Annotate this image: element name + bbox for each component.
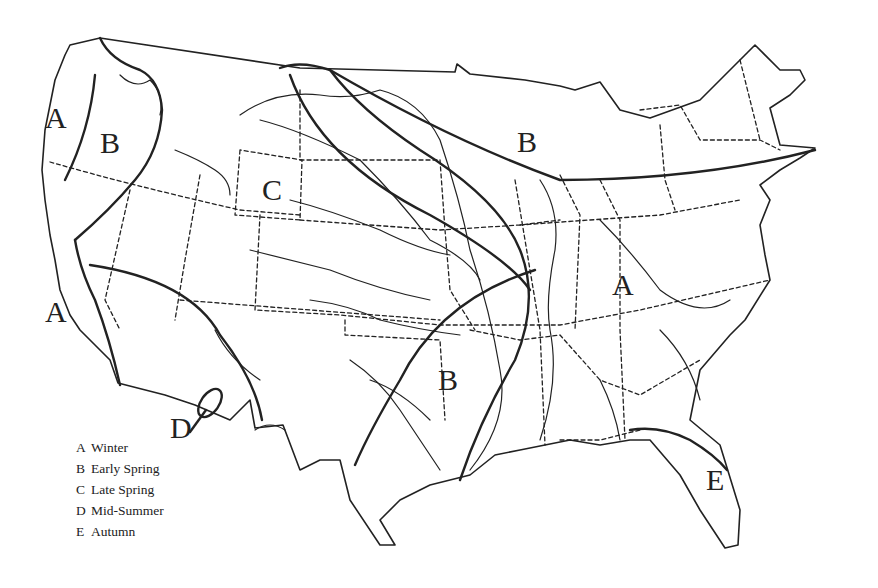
legend-item-mid-summer: D Mid-Summer (76, 503, 164, 524)
legend-item-winter: A Winter (76, 440, 164, 461)
region-label-b-south: B (438, 365, 458, 395)
legend-label: Early Spring (91, 461, 160, 482)
region-label-a-california: A (45, 297, 67, 327)
legend-key: D (76, 503, 91, 524)
legend-key: B (76, 461, 91, 482)
legend-key: C (76, 482, 91, 503)
region-label-b-great-lakes: B (517, 127, 537, 157)
legend-label: Autumn (91, 524, 135, 545)
legend-key: E (76, 524, 91, 545)
legend-label: Winter (91, 440, 128, 461)
legend-label: Late Spring (91, 482, 154, 503)
legend-item-early-spring: B Early Spring (76, 461, 164, 482)
legend-item-autumn: E Autumn (76, 524, 164, 545)
rivers (120, 75, 730, 470)
region-label-c-rockies: C (262, 175, 282, 205)
legend-key: A (76, 440, 91, 461)
legend-label: Mid-Summer (91, 503, 164, 524)
region-label-b-northwest: B (100, 128, 120, 158)
region-label-a-northwest: A (45, 103, 67, 133)
region-label-a-east: A (612, 270, 634, 300)
region-label-e-florida: E (706, 465, 724, 495)
legend-item-late-spring: C Late Spring (76, 482, 164, 503)
region-label-d-arizona: D (170, 413, 192, 443)
legend: A Winter B Early Spring C Late Spring D … (76, 440, 164, 545)
